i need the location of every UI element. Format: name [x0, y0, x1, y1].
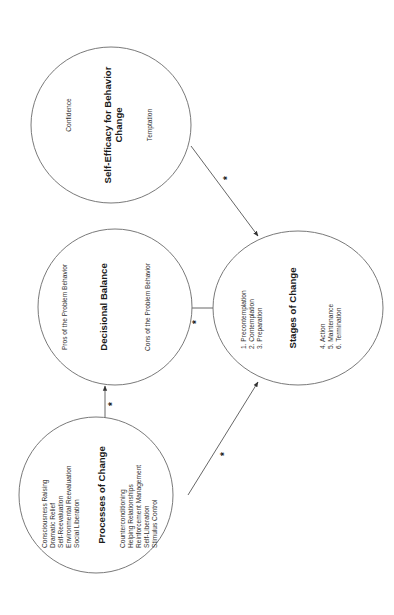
edge-processes-to-stages: *: [188, 382, 258, 495]
decisional-pros-label: Pros of the Problem Behavior: [61, 263, 68, 350]
edge-processes-to-decisional: *: [105, 386, 118, 418]
process-item: Counterconditioning: [119, 489, 127, 548]
edge-significance-star: *: [107, 402, 118, 406]
stage-item: 6. Termination: [335, 307, 342, 349]
node-self-efficacy: Confidence Self-Efficacy for Behavior Ch…: [31, 47, 191, 203]
process-item: Helping Relationships: [127, 484, 135, 548]
stage-item: 2. Contemplation: [248, 299, 256, 349]
efficacy-temptation-label: Temptation: [146, 109, 154, 142]
process-item: Consciousness Raising: [41, 479, 49, 548]
processes-title: Processes of Change: [96, 446, 107, 544]
efficacy-title-line1: Self-Efficacy for Behavior: [102, 66, 113, 183]
stages-title: Stages of Change: [287, 267, 298, 348]
process-item: Self-Liberation: [143, 505, 150, 548]
process-item: Self-Reevaluation: [57, 496, 64, 548]
node-stages-of-change: 1. Precontemplation 2. Contemplation 3. …: [213, 231, 383, 385]
process-item: Dramatic Relief: [49, 503, 56, 548]
decisional-title: Decisional Balance: [98, 263, 109, 350]
process-item: Social Liberation: [73, 499, 80, 548]
efficacy-confidence-label: Confidence: [65, 98, 72, 132]
process-item: Reinforcement Management: [135, 465, 143, 548]
stage-item: 4. Action: [319, 323, 326, 349]
efficacy-title-line2: Change: [113, 107, 124, 142]
decisional-cons-label: Cons of the Problem Behavior: [144, 262, 151, 351]
process-item: Environmental Reevaluation: [65, 465, 72, 548]
node-processes-of-change: Consciousness Raising Dramatic Relief Se…: [19, 417, 173, 573]
node-decisional-balance: Pros of the Problem Behavior Decisional …: [38, 229, 192, 385]
edge-significance-star: *: [191, 320, 202, 324]
process-item: Stimulus Control: [151, 499, 158, 548]
edge-significance-star: *: [222, 176, 233, 180]
stage-item: 3. Preparation: [256, 307, 264, 349]
stage-item: 1. Precontemplation: [240, 290, 248, 349]
edge-significance-star: *: [219, 452, 230, 456]
stage-item: 5. Maintenance: [327, 304, 334, 349]
edge-efficacy-to-stages: *: [191, 146, 258, 236]
stages-of-change-model-diagram: * * * * Confidence Self-Efficacy for Beh…: [0, 0, 394, 615]
